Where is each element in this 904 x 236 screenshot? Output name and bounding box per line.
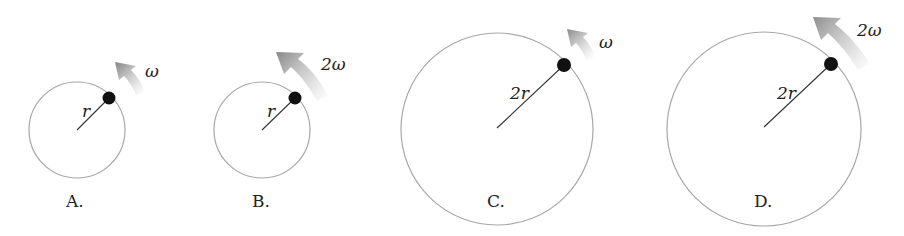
ball (103, 92, 116, 105)
ball (824, 57, 838, 71)
option-b: r 2ω B. (214, 52, 346, 211)
radius-label: r (267, 101, 276, 121)
omega-label: 2ω (856, 20, 882, 40)
option-c: 2r ω C. (401, 29, 613, 225)
option-a: r ω A. (29, 61, 159, 211)
radius-line (764, 64, 831, 127)
option-label: B. (252, 191, 270, 211)
circular-motion-figure: r ω A. r 2ω B. 2r ω C. (0, 0, 904, 236)
option-label: A. (65, 191, 84, 211)
radius-label: 2r (509, 83, 530, 103)
angular-velocity-arrow-icon (567, 29, 596, 61)
radius-line (497, 65, 564, 128)
ball (289, 92, 302, 105)
option-label: C. (487, 191, 505, 211)
omega-label: ω (145, 61, 159, 81)
option-label: D. (754, 191, 772, 211)
ball (557, 58, 571, 72)
omega-label: 2ω (320, 54, 346, 74)
omega-label: ω (599, 32, 613, 52)
radius-label: r (82, 101, 91, 121)
radius-label: 2r (776, 83, 797, 103)
angular-velocity-arrow-icon (115, 62, 145, 95)
option-d: 2r 2ω D. (667, 17, 882, 226)
